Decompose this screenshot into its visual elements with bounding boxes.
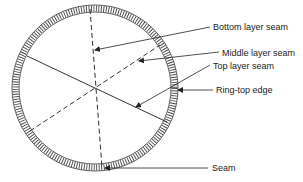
bottom-layer-seam-leader <box>95 27 210 50</box>
top-layer-seam-label: Top layer seam <box>213 61 274 71</box>
ring-seam-diagram: Bottom layer seam Middle layer seam Top … <box>0 0 303 182</box>
middle-layer-seam-leader <box>139 52 219 61</box>
top-layer-seam-line <box>27 56 167 122</box>
middle-layer-seam-label: Middle layer seam <box>222 48 295 58</box>
seam-label: Seam <box>212 163 236 173</box>
bottom-layer-seam-label: Bottom layer seam <box>213 22 288 32</box>
ring-top-edge-label: Ring-top edge <box>216 85 273 95</box>
